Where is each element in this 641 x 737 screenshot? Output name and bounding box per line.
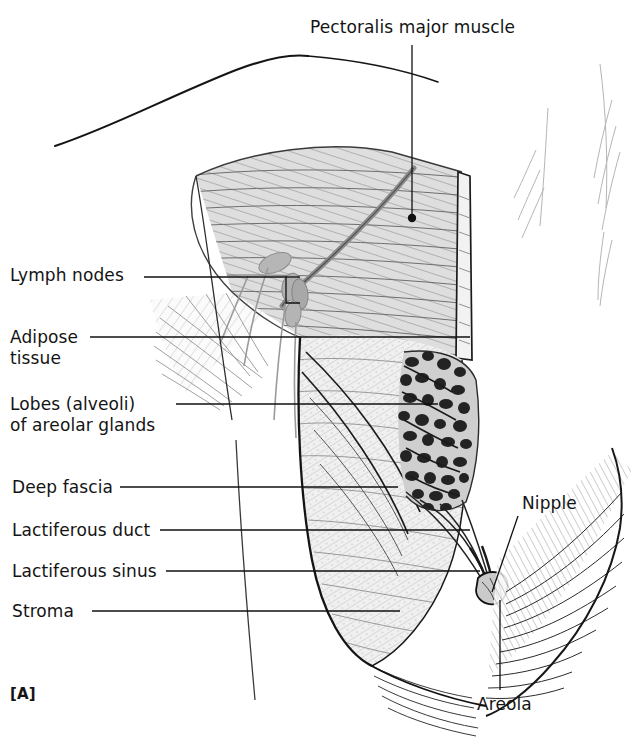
chest-wall-contour	[55, 56, 308, 146]
label-areola: Areola	[477, 694, 532, 715]
areolar-gland-lobes	[396, 344, 488, 520]
label-nipple: Nipple	[522, 493, 577, 514]
anatomy-illustration	[0, 0, 641, 737]
label-stroma: Stroma	[12, 601, 74, 622]
inframammary-fold	[368, 664, 486, 706]
label-lobes-areolar-glands: Lobes (alveoli)of areolar glands	[10, 394, 155, 436]
panel-label: [A]	[10, 684, 36, 705]
label-lactiferous-sinus: Lactiferous sinus	[12, 561, 157, 582]
chest-wall-contour-right	[308, 56, 438, 82]
figure-canvas: Pectoralis major muscle Lymph nodes Adip…	[0, 0, 641, 737]
label-adipose-tissue: Adiposetissue	[10, 327, 78, 369]
label-lobes-line1: Lobes (alveoli)	[10, 394, 135, 414]
label-lobes-line2: of areolar glands	[10, 415, 155, 435]
anterior-skin-contour	[236, 440, 255, 700]
background-sketch-strokes	[514, 64, 620, 306]
label-lymph-nodes: Lymph nodes	[10, 265, 124, 286]
leader-dot-pectoralis	[408, 214, 416, 222]
label-pectoralis-major-muscle: Pectoralis major muscle	[310, 17, 515, 38]
label-adipose-line2: tissue	[10, 348, 61, 368]
label-deep-fascia: Deep fascia	[12, 477, 113, 498]
label-adipose-line1: Adipose	[10, 327, 78, 347]
label-lactiferous-duct: Lactiferous duct	[12, 520, 150, 541]
